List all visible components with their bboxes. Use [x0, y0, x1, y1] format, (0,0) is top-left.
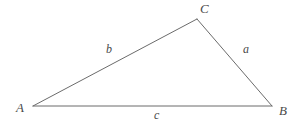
figure-background	[0, 0, 303, 127]
vertex-label-c: C	[200, 2, 209, 15]
vertex-label-a: A	[16, 101, 24, 114]
triangle-figure: A B C a b c	[0, 0, 303, 127]
triangle-drawing	[0, 0, 303, 127]
side-label-c: c	[154, 109, 159, 121]
side-label-a: a	[243, 43, 249, 55]
side-label-b: b	[106, 43, 112, 55]
vertex-label-b: B	[279, 104, 287, 117]
